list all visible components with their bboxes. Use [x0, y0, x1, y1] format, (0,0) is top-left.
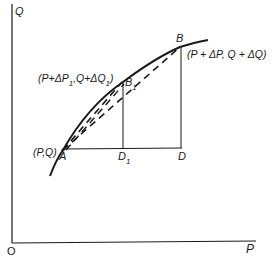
point-d-label: D — [178, 150, 186, 162]
chord-a-b1-inner — [66, 84, 124, 150]
point-b-coord-label: (P + ΔP, Q + ΔQ) — [187, 48, 266, 60]
diagram-canvas: Q P O (P,Q) A B1 (P+ΔP1,Q+ΔQ1) B (P + ΔP… — [0, 0, 277, 263]
point-a-coord-label: (P,Q) — [33, 146, 57, 158]
point-b1-coord-label: (P+ΔP1,Q+ΔQ1) — [38, 72, 114, 88]
p-axis-label: P — [246, 242, 254, 256]
q-axis-label: Q — [15, 5, 24, 17]
point-b-label: B — [176, 32, 183, 44]
origin-label: O — [7, 245, 16, 257]
chord-a-b1 — [63, 82, 122, 150]
point-d1-label: D1 — [118, 150, 130, 166]
chord-a-b — [63, 47, 180, 150]
p-axis — [12, 241, 256, 243]
point-a-label: A — [58, 150, 66, 162]
